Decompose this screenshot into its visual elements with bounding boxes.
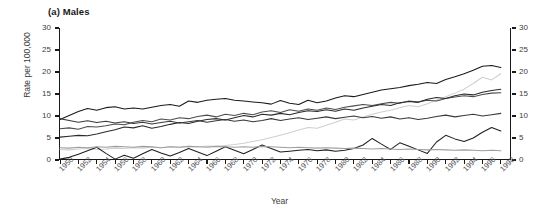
y-tick-label-right: 10 (519, 111, 541, 120)
y-tick-label-right: 5 (519, 133, 541, 142)
y-tick-label-left: 30 (29, 23, 51, 32)
y-tick-label-right: 30 (519, 23, 541, 32)
y-tick-mark-right (512, 115, 516, 116)
y-tick-mark-right (512, 93, 516, 94)
line-series-2 (60, 74, 501, 150)
line-series-6 (60, 127, 501, 159)
y-tick-mark-left (55, 49, 59, 50)
y-tick-label-right: 25 (519, 45, 541, 54)
y-tick-label-left: 15 (29, 89, 51, 98)
series-canvas (60, 28, 510, 160)
y-tick-label-left: 0 (29, 155, 51, 164)
y-tick-label-left: 10 (29, 111, 51, 120)
y-tick-mark-left (55, 27, 59, 28)
y-tick-mark-right (512, 49, 516, 50)
y-tick-label-left: 5 (29, 133, 51, 142)
x-axis-label: Year (0, 196, 559, 206)
y-tick-label-left: 25 (29, 45, 51, 54)
y-tick-mark-right (512, 27, 516, 28)
page-title: (a) Males (48, 6, 90, 17)
plot-area (60, 28, 510, 160)
y-tick-mark-right (512, 71, 516, 72)
line-series-5 (60, 113, 501, 124)
y-tick-mark-left (55, 137, 59, 138)
y-tick-mark-left (55, 115, 59, 116)
chart-figure: (a) Males Rate per 100,000 051015202530 … (0, 0, 559, 216)
y-tick-mark-right (512, 137, 516, 138)
y-tick-mark-left (55, 93, 59, 94)
line-series-1 (60, 65, 501, 119)
y-tick-mark-left (55, 71, 59, 72)
y-tick-mark-left (55, 159, 59, 160)
y-tick-label-right: 15 (519, 89, 541, 98)
y-tick-label-right: 0 (519, 155, 541, 164)
y-tick-label-right: 20 (519, 67, 541, 76)
line-series-4 (60, 89, 501, 137)
y-tick-label-left: 20 (29, 67, 51, 76)
